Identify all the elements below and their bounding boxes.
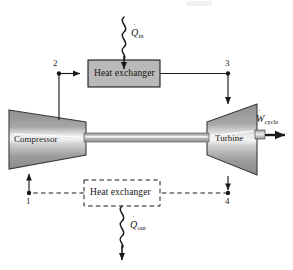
heat-in-subscript: in bbox=[138, 32, 143, 39]
node-state3 bbox=[226, 71, 230, 75]
turbine-output-stub bbox=[255, 130, 265, 139]
state-label-3: 3 bbox=[225, 59, 230, 68]
heat-in-dot: ˙ bbox=[133, 24, 136, 32]
shaft bbox=[84, 133, 209, 142]
work-cycle-subscript: cycle bbox=[265, 118, 279, 125]
heat-exchanger-out-label: Heat exchanger bbox=[90, 188, 151, 198]
line-state4-to-hx-out bbox=[160, 176, 230, 195]
heat-out-wavy-arrow bbox=[120, 206, 124, 260]
work-cycle-dot: ˙ bbox=[259, 110, 262, 118]
heat-exchanger-in-label: Heat exchanger bbox=[94, 69, 155, 79]
heat-in-label: ˙Qin bbox=[131, 28, 143, 38]
cycle-diagram: Heat exchanger Heat exchanger Compressor… bbox=[0, 0, 293, 270]
turbine-label: Turbine bbox=[215, 134, 243, 143]
heat-out-dot: ˙ bbox=[132, 216, 135, 224]
heat-out-label: ˙Qout bbox=[130, 220, 146, 230]
node-state2 bbox=[57, 71, 61, 75]
shaft-bar bbox=[84, 133, 209, 142]
state-label-1: 1 bbox=[26, 197, 31, 206]
line-state2-to-hx-in bbox=[57, 71, 80, 120]
compressor-label: Compressor bbox=[14, 135, 58, 144]
heat-in-wave bbox=[122, 17, 126, 59]
work-cycle-symbol: ˙W bbox=[256, 114, 264, 124]
heat-out-subscript: out bbox=[137, 224, 145, 231]
work-cycle-label: ˙Wcycle bbox=[256, 114, 278, 124]
state-label-4: 4 bbox=[225, 197, 230, 206]
line-hx-in-to-state3 bbox=[160, 71, 230, 104]
heat-out-wave bbox=[120, 206, 124, 248]
line-hx-out-to-state1 bbox=[27, 174, 84, 195]
state-label-2: 2 bbox=[53, 59, 58, 68]
